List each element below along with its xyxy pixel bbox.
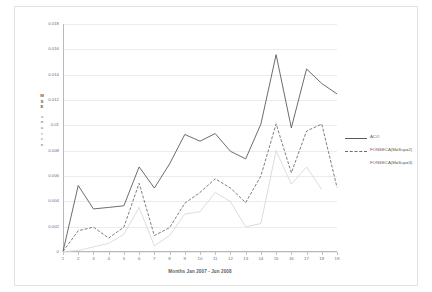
x-axis-tick-mark xyxy=(185,252,186,255)
x-axis-tick-mark xyxy=(246,252,247,255)
x-axis-tick-label: 19 xyxy=(335,257,340,261)
x-axis-tick-mark xyxy=(109,252,110,255)
x-axis-tick-mark xyxy=(276,252,277,255)
x-axis-tick-label: 12 xyxy=(228,257,233,261)
x-axis-tick-mark xyxy=(170,252,171,255)
legend-item-fonseca-sup2: FONSECA(M=Sup=2) xyxy=(345,144,432,157)
x-axis-tick-mark xyxy=(291,252,292,255)
x-axis-tick-label: 14 xyxy=(258,257,263,261)
x-axis-tick-mark xyxy=(63,252,64,255)
x-axis-tick-mark xyxy=(93,252,94,255)
series-line-aco xyxy=(63,55,337,252)
legend-item-aco: ACO xyxy=(345,131,432,144)
y-axis-tick-label: 0 xyxy=(57,250,59,254)
y-axis-title-char: e xyxy=(36,142,48,148)
x-axis-tick-label: 4 xyxy=(107,257,109,261)
chart-figure: M S E s o u r c e 00.0020.0040.0060.0080… xyxy=(14,6,418,286)
legend-label: ACO xyxy=(370,135,379,139)
y-axis-tick-label: 0.018 xyxy=(48,22,59,26)
x-axis-tick-label: 13 xyxy=(243,257,248,261)
x-axis-tick-label: 2 xyxy=(77,257,79,261)
plot-area: 00.0020.0040.0060.0080.010.0120.0140.016… xyxy=(63,24,337,252)
x-axis-tick-mark xyxy=(322,252,323,255)
legend-item-fonseca-sup3: FONSECA(M=Sup=3) xyxy=(345,157,432,170)
x-axis-tick-mark xyxy=(139,252,140,255)
x-axis-tick-label: 8 xyxy=(168,257,170,261)
x-axis-tick-label: 1 xyxy=(62,257,64,261)
y-axis-tick-label: 0.012 xyxy=(48,98,59,102)
x-axis-tick-mark xyxy=(215,252,216,255)
x-axis-tick-mark xyxy=(307,252,308,255)
x-axis-tick-mark xyxy=(124,252,125,255)
y-axis-tick-label: 0.008 xyxy=(48,149,59,153)
x-axis-tick-mark xyxy=(230,252,231,255)
x-axis-tick-label: 9 xyxy=(184,257,186,261)
x-axis-tick-mark xyxy=(154,252,155,255)
x-axis-tick-mark xyxy=(337,252,338,255)
x-axis-title: Months Jan 2007 - Jun 2008 xyxy=(63,269,337,274)
legend-line-swatch-dashed xyxy=(345,148,367,154)
x-axis-tick-label: 7 xyxy=(153,257,155,261)
x-axis-tick-label: 3 xyxy=(92,257,94,261)
y-axis-title: M S E s o u r c e xyxy=(36,93,48,147)
series-line-fonseca-m-sup-2 xyxy=(63,124,337,252)
x-axis-tick-label: 6 xyxy=(138,257,140,261)
x-axis-tick-label: 17 xyxy=(304,257,309,261)
x-axis-tick-mark xyxy=(78,252,79,255)
x-axis-tick-label: 18 xyxy=(319,257,324,261)
chart-legend: ACO FONSECA(M=Sup=2) FONSECA(M=Sup=3) xyxy=(345,131,432,170)
y-axis-tick-label: 0.01 xyxy=(51,123,59,127)
x-axis-tick-label: 5 xyxy=(123,257,125,261)
legend-label: FONSECA(M=Sup=2) xyxy=(370,148,412,152)
y-axis-tick-label: 0.002 xyxy=(48,225,59,229)
series-line-fonseca-m-sup-3 xyxy=(63,151,322,252)
x-axis-tick-label: 11 xyxy=(213,257,218,261)
legend-line-swatch-light xyxy=(345,161,367,167)
x-axis-tick-mark xyxy=(261,252,262,255)
x-axis-tick-label: 16 xyxy=(289,257,294,261)
y-axis-tick-label: 0.006 xyxy=(48,174,59,178)
y-axis-tick-label: 0.014 xyxy=(48,73,59,77)
x-axis-tick-label: 10 xyxy=(198,257,203,261)
y-axis-tick-label: 0.004 xyxy=(48,199,59,203)
x-axis-tick-label: 15 xyxy=(274,257,279,261)
x-axis-tick-mark xyxy=(200,252,201,255)
legend-label: FONSECA(M=Sup=3) xyxy=(370,161,412,165)
y-axis-tick-label: 0.016 xyxy=(48,47,59,51)
series-lines xyxy=(63,24,337,252)
legend-line-swatch-solid xyxy=(345,135,367,141)
